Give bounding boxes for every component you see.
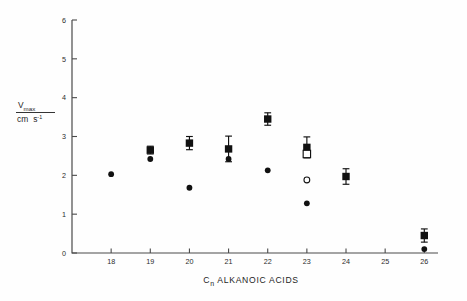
y-axis-title: Vmaxcms-1	[16, 100, 55, 124]
data-point-filled-circle	[226, 156, 232, 162]
data-point-filled-square	[186, 139, 193, 146]
data-point-filled-square	[342, 173, 349, 180]
data-point-filled-circle	[304, 200, 310, 206]
x-tick-label: 25	[381, 257, 389, 266]
data-point-filled-square	[225, 145, 232, 152]
data-point-filled-circle	[265, 167, 271, 173]
plot-axes	[72, 20, 438, 253]
chart-figure: 0123456181920212223242526Cn ALKANOIC ACI…	[0, 0, 467, 301]
data-point-filled-circle	[108, 171, 114, 177]
x-tick-label: 24	[342, 257, 350, 266]
y-tick-label: 0	[62, 249, 66, 258]
x-tick-label: 21	[225, 257, 233, 266]
y-tick-label: 1	[62, 210, 66, 219]
y-tick-label: 6	[62, 16, 66, 25]
x-tick-label: 26	[420, 257, 428, 266]
x-tick-label: 23	[303, 257, 311, 266]
data-point-filled-circle	[421, 246, 427, 252]
series-filled-square	[147, 113, 428, 242]
data-point-filled-square	[264, 115, 271, 122]
svg-text:Vmax: Vmax	[18, 100, 36, 112]
data-point-filled-square	[421, 232, 428, 239]
y-tick-label: 4	[62, 93, 66, 102]
x-tick-label: 20	[185, 257, 193, 266]
x-tick-label: 19	[146, 257, 154, 266]
series-open-square	[303, 150, 310, 157]
data-point-filled-circle	[187, 185, 193, 191]
data-point-open-circle	[304, 177, 310, 183]
y-tick-label: 3	[62, 132, 66, 141]
data-point-filled-square	[147, 146, 154, 153]
x-tick-label: 18	[107, 257, 115, 266]
data-point-open-square	[303, 150, 310, 157]
y-tick-label: 2	[62, 171, 66, 180]
x-tick-label: 22	[264, 257, 272, 266]
svg-text:cms-1: cms-1	[17, 114, 42, 124]
y-tick-label: 5	[62, 55, 66, 64]
series-filled-circle	[108, 156, 427, 252]
scatter-plot-svg: 0123456181920212223242526Cn ALKANOIC ACI…	[0, 0, 467, 301]
series-open-circle	[304, 177, 310, 183]
x-axis-title: Cn ALKANOIC ACIDS	[203, 275, 299, 287]
data-point-filled-circle	[147, 156, 153, 162]
